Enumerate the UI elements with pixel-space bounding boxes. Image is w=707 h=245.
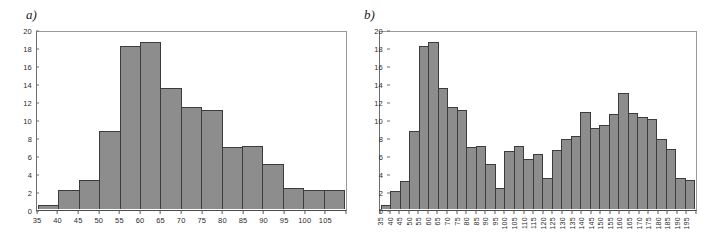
x-axis-tick: 50: [405, 211, 412, 225]
x-axis-tick-mark: [667, 211, 668, 214]
panel-a-y-axis: 02468101214161820: [6, 31, 36, 211]
x-axis-tick-mark: [609, 211, 610, 214]
x-axis-tick-mark: [140, 211, 141, 214]
panel-a-plot: 02468101214161820 3540455055606570758085…: [36, 31, 347, 211]
x-axis-tick-mark: [181, 211, 182, 214]
y-axis-tick-label: 14: [23, 81, 32, 90]
x-axis-tick: 95: [280, 211, 289, 225]
x-axis-tick-label: 105: [319, 216, 332, 225]
y-axis-tick-label: 8: [28, 135, 32, 144]
x-axis-tick: 50: [94, 211, 103, 225]
x-axis-tick-label: 50: [94, 216, 103, 225]
x-axis-tick-label: 60: [136, 216, 145, 225]
x-axis-tick-label: 160: [616, 217, 623, 230]
y-axis-tick-mark: [36, 49, 39, 50]
y-axis-tick-label: 10: [23, 117, 32, 126]
x-axis-tick-mark: [485, 211, 486, 214]
panel-b-x-axis: 3540455055606570758085909510010511011512…: [380, 211, 696, 245]
x-axis-tick: 105: [511, 211, 518, 230]
x-axis-tick-label: 155: [606, 217, 613, 230]
x-axis-tick-mark: [475, 211, 476, 214]
x-axis-tick-mark: [57, 211, 58, 214]
y-axis-tick-label: 4: [379, 171, 383, 180]
x-axis-tick-mark: [346, 211, 347, 214]
x-axis-tick: 85: [472, 211, 479, 225]
x-axis-tick-mark: [657, 211, 658, 214]
x-axis-tick-mark: [418, 211, 419, 214]
x-axis-tick-mark: [504, 211, 505, 214]
histogram-bar: [58, 190, 79, 209]
histogram-bar: [685, 180, 695, 209]
x-axis-tick-mark: [638, 211, 639, 214]
y-axis-tick-mark: [387, 175, 390, 176]
x-axis-tick-label: 70: [444, 217, 451, 225]
panel-a: a) 02468101214161820 3540455055606570758…: [0, 0, 354, 245]
x-axis-tick-label: 100: [298, 216, 311, 225]
y-axis-tick-mark: [387, 103, 390, 104]
x-axis-tick: 195: [683, 211, 690, 230]
y-axis-tick-label: 12: [374, 99, 383, 108]
x-axis-tick: 60: [136, 211, 145, 225]
x-axis-tick-label: 195: [683, 217, 690, 230]
x-axis-tick-label: 95: [280, 216, 289, 225]
x-axis-tick-label: 45: [74, 216, 83, 225]
x-axis-tick-label: 90: [259, 216, 268, 225]
x-axis-tick: 65: [434, 211, 441, 225]
x-axis-tick: 130: [558, 211, 565, 230]
histogram-bar: [38, 205, 59, 209]
x-axis-tick-label: 125: [549, 217, 556, 230]
x-axis-tick-mark: [37, 211, 38, 214]
x-axis-tick-label: 110: [520, 217, 527, 229]
x-axis-tick: 170: [635, 211, 642, 230]
x-axis-tick-label: 50: [405, 217, 412, 225]
x-axis-tick-label: 75: [197, 216, 206, 225]
x-axis-tick-label: 85: [472, 217, 479, 225]
x-axis-tick: 60: [424, 211, 431, 225]
x-axis-tick-mark: [619, 211, 620, 214]
histogram-bar: [181, 107, 202, 209]
x-axis-tick-mark: [494, 211, 495, 214]
x-axis-tick: 35: [377, 211, 384, 225]
x-axis-tick: 80: [218, 211, 227, 225]
y-axis-tick-label: 20: [374, 27, 383, 36]
x-axis-tick-label: 145: [587, 217, 594, 230]
x-axis-tick: 185: [664, 211, 671, 230]
y-axis-tick-mark: [387, 121, 390, 122]
histogram-bar: [324, 190, 345, 209]
panel-b-y-axis: 02468101214161820: [357, 31, 387, 211]
y-axis-tick-mark: [36, 139, 39, 140]
y-axis-tick-label: 6: [379, 153, 383, 162]
x-axis-tick-label: 120: [539, 217, 546, 230]
y-axis-tick-mark: [387, 157, 390, 158]
x-axis-tick-label: 35: [33, 216, 42, 225]
x-axis-tick-label: 150: [597, 217, 604, 230]
x-axis-tick-mark: [222, 211, 223, 214]
y-axis-tick-label: 2: [379, 189, 383, 198]
x-axis-tick-label: 65: [434, 217, 441, 225]
x-axis-tick-label: 165: [625, 217, 632, 230]
x-axis-tick-mark: [304, 211, 305, 214]
y-axis-tick-mark: [36, 157, 39, 158]
x-axis-tick: 90: [259, 211, 268, 225]
histogram-bar: [99, 131, 120, 209]
x-axis-tick-mark: [696, 211, 697, 214]
y-axis-tick-label: 8: [379, 135, 383, 144]
histogram-bar: [262, 164, 283, 209]
x-axis-tick-mark: [325, 211, 326, 214]
x-axis-tick: 125: [549, 211, 556, 230]
x-axis-tick: 120: [539, 211, 546, 230]
y-axis-tick-mark: [36, 85, 39, 86]
y-axis-tick-mark: [36, 103, 39, 104]
y-axis-tick-mark: [36, 31, 39, 32]
x-axis-tick-label: 65: [156, 216, 165, 225]
x-axis-tick: 45: [396, 211, 403, 225]
x-axis-tick: 160: [616, 211, 623, 230]
x-axis-tick-mark: [284, 211, 285, 214]
x-axis-tick: 180: [654, 211, 661, 230]
x-axis-tick: 100: [501, 211, 508, 230]
y-axis-tick-mark: [387, 193, 390, 194]
x-axis-tick-mark: [98, 211, 99, 214]
y-axis-tick-mark: [387, 85, 390, 86]
x-axis-tick: 95: [491, 211, 498, 225]
x-axis-tick: 140: [578, 211, 585, 230]
